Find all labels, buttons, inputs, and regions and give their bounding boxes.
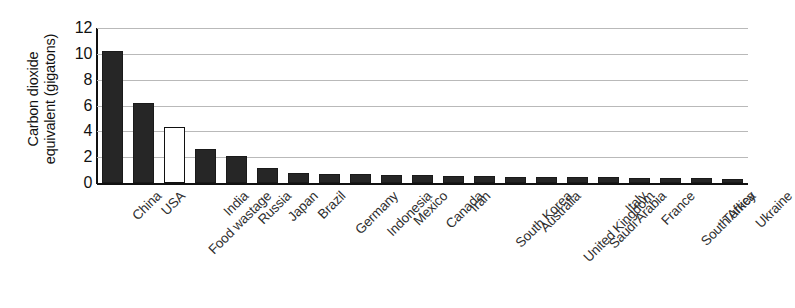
y-axis-tick-label: 2	[66, 149, 92, 165]
bar[interactable]	[226, 156, 247, 183]
bar[interactable]	[319, 174, 340, 183]
y-axis-title-line2: equivalent (gigatons)	[42, 13, 59, 185]
bar[interactable]	[133, 103, 154, 183]
y-axis-tick-label: 10	[66, 46, 92, 62]
bar[interactable]	[443, 176, 464, 183]
y-axis-title: Carbon dioxide equivalent (gigatons)	[25, 13, 59, 185]
y-axis-tick-label: 4	[66, 123, 92, 139]
bar[interactable]	[412, 175, 433, 183]
bar[interactable]	[257, 168, 278, 184]
bar[interactable]	[350, 174, 371, 183]
bar[interactable]	[164, 127, 185, 183]
x-axis-tick-label: Ukraine	[753, 189, 795, 231]
x-axis-tick-label: Turkey	[720, 189, 758, 227]
y-axis-tick-labels: 121086420	[62, 0, 92, 195]
gridline	[97, 28, 748, 29]
y-axis-tick-label: 8	[66, 72, 92, 88]
x-axis-tick-labels: ChinaUSAFood wastageIndiaRussiaJapanBraz…	[0, 183, 781, 308]
bar[interactable]	[102, 51, 123, 183]
gridline	[97, 54, 748, 55]
bar[interactable]	[381, 175, 402, 183]
plot-area	[97, 28, 748, 183]
bar[interactable]	[288, 173, 309, 183]
y-axis-tick-label: 6	[66, 98, 92, 114]
bar[interactable]	[474, 176, 495, 183]
x-axis-tick-label: Brazil	[315, 189, 348, 222]
bar[interactable]	[195, 149, 216, 183]
y-axis-tick-label: 12	[66, 20, 92, 36]
gridline	[97, 80, 748, 81]
gridline	[97, 131, 748, 132]
y-axis-title-line1: Carbon dioxide	[25, 13, 42, 185]
x-axis-tick-label: USA	[158, 189, 187, 218]
gridline	[97, 106, 748, 107]
